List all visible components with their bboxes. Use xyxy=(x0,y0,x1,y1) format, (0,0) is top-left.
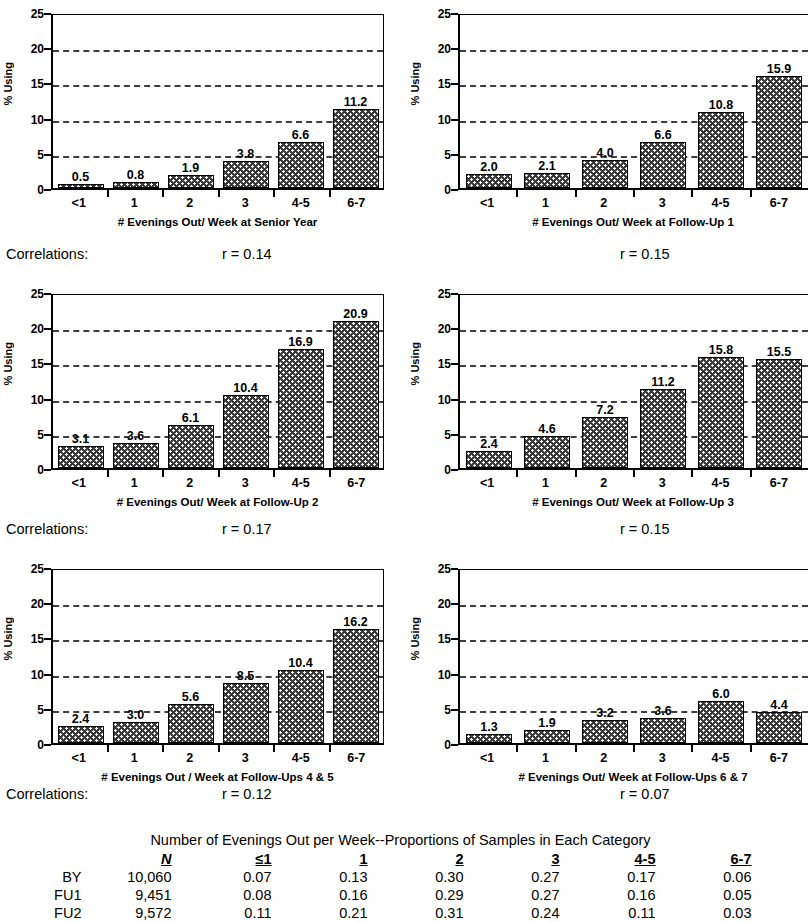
bar-slot: 2.4 xyxy=(460,295,518,468)
bar-series: 3.13.66.110.416.920.9 xyxy=(53,295,383,468)
y-tick-label: 5 xyxy=(37,428,44,442)
bar-value-label: 7.2 xyxy=(596,403,613,417)
bar: 4.4 xyxy=(756,712,802,743)
table-column-header: 2 xyxy=(386,850,482,868)
table-row-label: BY xyxy=(22,868,86,886)
bar-value-label: 6.6 xyxy=(654,128,671,142)
table-cell: 0.16 xyxy=(578,886,674,904)
plot-area: 0.50.81.93.86.611.2 xyxy=(51,14,384,190)
bar: 4.0 xyxy=(582,160,628,188)
bar-value-label: 11.2 xyxy=(651,375,675,389)
bar: 3.1 xyxy=(58,446,104,468)
bar-slot: 3.1 xyxy=(53,295,108,468)
x-tick-label: 2 xyxy=(162,196,218,214)
x-tick-label: 3 xyxy=(218,476,274,494)
correlation-value-left: r = 0.12 xyxy=(222,786,272,802)
table-row: FU29,5720.110.210.310.240.110.03 xyxy=(22,904,770,922)
table-cell: 9,451 xyxy=(86,886,194,904)
y-tick-label: 0 xyxy=(37,738,44,752)
x-tick-label: 4-5 xyxy=(691,751,749,769)
x-tick-label: 3 xyxy=(633,476,691,494)
y-tick-label: 20 xyxy=(31,597,44,611)
x-tick-label: 3 xyxy=(633,751,691,769)
bar-slot: 2.0 xyxy=(460,15,518,188)
x-tick-label: 1 xyxy=(516,476,574,494)
bar-slot: 1.3 xyxy=(460,570,518,743)
table-column-header: 3 xyxy=(482,850,578,868)
table-cell: 0.21 xyxy=(290,904,386,922)
bar-slot: 0.8 xyxy=(108,15,163,188)
plot-area: 2.02.14.06.610.815.9 xyxy=(458,14,808,190)
bar-value-label: 10.4 xyxy=(233,381,257,395)
bar-slot: 6.1 xyxy=(163,295,218,468)
bar: 10.4 xyxy=(223,395,269,468)
table-cell: 0.07 xyxy=(194,868,290,886)
x-tick-label: 1 xyxy=(516,751,574,769)
y-tick-label: 5 xyxy=(37,148,44,162)
y-tick-label: 15 xyxy=(31,77,44,91)
bar: 10.8 xyxy=(698,112,744,188)
y-tick-label: 0 xyxy=(37,183,44,197)
x-axis-title: # Evenings Out/ Week at Follow-Ups 6 & 7 xyxy=(458,771,808,783)
x-tick-label: 4-5 xyxy=(691,196,749,214)
bar-series: 2.02.14.06.610.815.9 xyxy=(460,15,808,188)
bar-value-label: 20.9 xyxy=(343,307,367,321)
bar-slot: 1.9 xyxy=(163,15,218,188)
table-column-header: 4-5 xyxy=(578,850,674,868)
y-tick-label: 10 xyxy=(438,393,451,407)
plot-area: 1.31.93.23.66.04.4 xyxy=(458,569,808,745)
bar-slot: 20.9 xyxy=(328,295,383,468)
bar-value-label: 3.6 xyxy=(654,704,671,718)
y-tick-label: 25 xyxy=(31,7,44,21)
y-tick-label: 25 xyxy=(438,562,451,576)
x-tick-label: 6-7 xyxy=(750,751,808,769)
table-row: FU19,4510.080.160.290.270.160.05 xyxy=(22,886,770,904)
bar-slot: 3.0 xyxy=(108,570,163,743)
bar-slot: 16.9 xyxy=(273,295,328,468)
x-tick-label: 6-7 xyxy=(329,196,385,214)
x-axis-labels: <11234-56-7 xyxy=(458,751,808,769)
bar-value-label: 10.8 xyxy=(709,98,733,112)
bar: 15.8 xyxy=(698,357,744,468)
x-tick-label: 4-5 xyxy=(691,476,749,494)
y-tick-label: 10 xyxy=(438,113,451,127)
table-column-header: 1 xyxy=(290,850,386,868)
bar-value-label: 1.9 xyxy=(538,716,555,730)
y-tick-label: 0 xyxy=(444,738,451,752)
bar: 16.2 xyxy=(333,629,379,743)
bar: 8.5 xyxy=(223,683,269,743)
table-cell: 0.29 xyxy=(386,886,482,904)
y-tick-label: 10 xyxy=(31,668,44,682)
x-axis-title: # Evenings Out/ Week at Senior Year xyxy=(51,216,384,228)
bar: 2.4 xyxy=(466,451,512,468)
bar-value-label: 16.9 xyxy=(288,335,312,349)
plot-area: 2.44.67.211.215.815.5 xyxy=(458,294,808,470)
x-tick-label: <1 xyxy=(51,196,107,214)
y-axis-ticks: 0510152025 xyxy=(14,4,50,190)
bar-slot: 11.2 xyxy=(634,295,692,468)
y-tick-label: 5 xyxy=(444,148,451,162)
table-header-row: N≤11234-56-7 xyxy=(22,850,770,868)
x-tick-label: 2 xyxy=(575,476,633,494)
bar-slot: 4.0 xyxy=(576,15,634,188)
bar: 0.5 xyxy=(58,184,104,188)
table-head: N≤11234-56-7 xyxy=(22,850,770,868)
correlation-value-left: r = 0.17 xyxy=(222,521,272,537)
bar: 3.2 xyxy=(582,720,628,743)
table-cell: 0.06 xyxy=(674,868,770,886)
correlations-row: Correlations:r = 0.14r = 0.15 xyxy=(0,246,791,266)
chart-panel-follow-ups-6-7: % Using05101520251.31.93.23.66.04.4<1123… xyxy=(407,559,798,794)
x-tick-label: <1 xyxy=(458,751,516,769)
bar-value-label: 10.4 xyxy=(288,656,312,670)
y-axis-ticks: 0510152025 xyxy=(421,284,457,470)
bar: 16.9 xyxy=(278,349,324,468)
table-column-header: ≤1 xyxy=(194,850,290,868)
bar-slot: 10.4 xyxy=(218,295,273,468)
x-tick-label: 2 xyxy=(162,476,218,494)
table-cell: 0.24 xyxy=(482,904,578,922)
x-tick-label: 4-5 xyxy=(273,196,329,214)
table-cell: 0.13 xyxy=(290,868,386,886)
x-tick-label: 1 xyxy=(107,476,163,494)
bar: 1.3 xyxy=(466,734,512,743)
correlations-label: Correlations: xyxy=(6,246,88,262)
